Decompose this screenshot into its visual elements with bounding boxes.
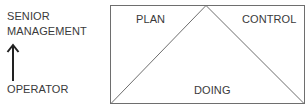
control-label: CONTROL [242,13,296,25]
operator-label: OPERATOR [7,83,69,95]
senior-label: SENIOR [7,10,50,22]
doing-label: DOING [194,84,231,96]
plan-label: PLAN [136,13,165,25]
up-arrow-icon [8,45,19,81]
management-label: MANAGEMENT [7,25,87,37]
